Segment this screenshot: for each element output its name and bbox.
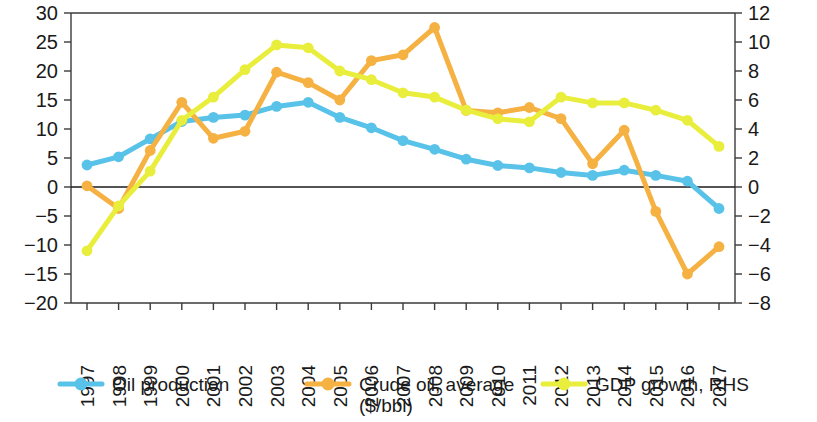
left-axis-ticks: 302520151050−5−10−15−20: [24, 2, 71, 314]
legend-swatch-marker-2: [558, 378, 571, 391]
data-point-oil_production-2012: [556, 167, 567, 178]
legend-label-2: GDP growth, RHS: [595, 374, 749, 395]
data-point-crude_oil_average-2012: [556, 113, 567, 124]
left-axis-tick-label: −10: [24, 234, 58, 256]
right-axis-tick-label: 12: [748, 2, 770, 24]
data-point-crude_oil_average-1997: [82, 180, 93, 191]
data-point-gdp_growth-1997: [82, 245, 93, 256]
left-axis-tick-label: −5: [35, 205, 58, 227]
right-axis-tick-label: −6: [748, 263, 771, 285]
oil-production-gdp-chart: 302520151050−5−10−15−20 121086420−2−4−6−…: [0, 0, 817, 422]
right-axis-tick-label: 6: [748, 89, 759, 111]
data-point-crude_oil_average-2000: [176, 97, 187, 108]
right-axis-tick-label: 2: [748, 147, 759, 169]
data-point-oil_production-2011: [524, 163, 535, 174]
data-point-gdp_growth-2010: [492, 113, 503, 124]
x-axis-tick-label: 2011: [519, 365, 540, 406]
legend-label-0: Oil production: [112, 374, 229, 395]
data-point-crude_oil_average-1999: [145, 145, 156, 156]
data-point-crude_oil_average-2001: [208, 133, 219, 144]
data-point-gdp_growth-2009: [461, 105, 472, 116]
legend-swatch-marker-0: [75, 378, 88, 391]
right-axis-tick-label: 10: [748, 31, 770, 53]
data-point-gdp_growth-1998: [113, 201, 124, 212]
data-point-oil_production-2003: [271, 101, 282, 112]
data-point-gdp_growth-2016: [682, 115, 693, 126]
x-axis-tick-label: 2002: [235, 365, 256, 407]
data-point-gdp_growth-2012: [556, 92, 567, 103]
legend-swatch-marker-1: [322, 378, 335, 391]
data-point-gdp_growth-2008: [429, 92, 440, 103]
data-point-crude_oil_average-2006: [366, 55, 377, 66]
right-axis-tick-label: 0: [748, 176, 759, 198]
data-point-oil_production-2015: [650, 170, 661, 181]
left-axis-tick-label: 25: [36, 31, 58, 53]
data-point-oil_production-1997: [82, 160, 93, 171]
right-axis-tick-label: 4: [748, 118, 759, 140]
data-point-oil_production-2009: [461, 154, 472, 165]
data-point-gdp_growth-2011: [524, 116, 535, 127]
data-point-crude_oil_average-2015: [650, 206, 661, 217]
legend-item-2[interactable]: GDP growth, RHS: [543, 374, 749, 395]
left-axis-tick-label: 30: [36, 2, 58, 24]
left-axis-tick-label: 15: [36, 89, 58, 111]
series-gdp_growth: [82, 40, 725, 257]
data-point-crude_oil_average-2008: [429, 22, 440, 33]
data-point-oil_production-2017: [714, 203, 725, 214]
right-axis-tick-label: −2: [748, 205, 771, 227]
data-point-gdp_growth-2017: [714, 141, 725, 152]
data-point-oil_production-2006: [366, 122, 377, 133]
x-axis-tick-label: 2003: [267, 365, 288, 407]
data-point-gdp_growth-2015: [650, 105, 661, 116]
series-line-gdp_growth: [87, 45, 719, 251]
data-point-gdp_growth-2014: [619, 98, 630, 109]
data-point-gdp_growth-2003: [271, 40, 282, 51]
data-point-crude_oil_average-2014: [619, 125, 630, 136]
legend-label-line2-1: ($/bbl): [359, 395, 413, 416]
data-point-oil_production-2016: [682, 176, 693, 187]
right-axis-tick-label: 8: [748, 60, 759, 82]
left-axis-tick-label: 0: [47, 176, 58, 198]
data-point-crude_oil_average-2004: [303, 77, 314, 88]
data-point-gdp_growth-1999: [145, 166, 156, 177]
data-point-oil_production-1998: [113, 151, 124, 162]
data-point-gdp_growth-2006: [366, 74, 377, 85]
x-axis-ticks: [87, 303, 719, 310]
data-point-oil_production-2007: [398, 135, 409, 146]
left-axis-tick-label: −15: [24, 263, 58, 285]
series-crude_oil_average: [82, 22, 725, 279]
legend-label-1: Crude oil, average: [359, 374, 514, 395]
data-point-oil_production-2001: [208, 112, 219, 123]
series-line-crude_oil_average: [87, 28, 719, 275]
data-point-gdp_growth-2007: [398, 87, 409, 98]
data-point-crude_oil_average-2011: [524, 102, 535, 113]
data-point-crude_oil_average-2017: [714, 241, 725, 252]
data-point-oil_production-2013: [587, 170, 598, 181]
data-point-gdp_growth-2000: [176, 115, 187, 126]
data-point-oil_production-2008: [429, 144, 440, 155]
data-point-crude_oil_average-2002: [240, 126, 251, 137]
left-axis-tick-label: 20: [36, 60, 58, 82]
data-point-gdp_growth-2005: [334, 66, 345, 77]
data-point-gdp_growth-2001: [208, 92, 219, 103]
chart-container: 302520151050−5−10−15−20 121086420−2−4−6−…: [0, 0, 817, 422]
data-point-oil_production-2005: [334, 112, 345, 123]
data-point-crude_oil_average-2005: [334, 95, 345, 106]
data-point-gdp_growth-2002: [240, 64, 251, 75]
left-axis-tick-label: 5: [47, 147, 58, 169]
data-point-oil_production-2010: [492, 160, 503, 171]
right-axis-tick-label: −8: [748, 292, 771, 314]
data-point-crude_oil_average-2007: [398, 49, 409, 60]
data-point-crude_oil_average-2013: [587, 158, 598, 169]
series-layer: [82, 22, 725, 279]
data-point-gdp_growth-2013: [587, 98, 598, 109]
data-point-oil_production-2002: [240, 110, 251, 121]
data-point-crude_oil_average-2016: [682, 269, 693, 280]
left-axis-tick-label: 10: [36, 118, 58, 140]
series-oil_production: [82, 97, 725, 214]
right-axis-ticks: 121086420−2−4−6−8: [735, 2, 771, 314]
data-point-oil_production-2014: [619, 165, 630, 176]
left-axis-tick-label: −20: [24, 292, 58, 314]
data-point-crude_oil_average-2003: [271, 67, 282, 78]
data-point-gdp_growth-2004: [303, 42, 314, 53]
